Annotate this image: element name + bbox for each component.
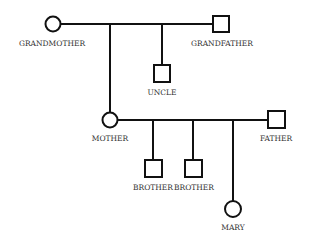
grandfather-label: GRANDFATHER: [191, 39, 253, 48]
uncle-male-icon: [154, 65, 170, 82]
brother2-label: BROTHER: [174, 183, 214, 192]
brother2-male-icon: [185, 160, 202, 177]
father-male-icon: [268, 111, 285, 128]
mother-label: MOTHER: [92, 134, 129, 143]
father-label: FATHER: [260, 134, 293, 143]
grandmother-female-icon: [46, 17, 61, 32]
uncle-label: UNCLE: [147, 88, 176, 97]
brother1-label: BROTHER: [133, 183, 173, 192]
brother1-male-icon: [145, 160, 162, 177]
grandfather-male-icon: [213, 16, 229, 32]
pedigree-chart: GRANDMOTHER GRANDFATHER UNCLE MOTHER FAT…: [0, 0, 313, 242]
mary-female-icon: [225, 201, 241, 217]
mary-label: MARY: [221, 223, 246, 232]
mother-female-icon: [103, 113, 118, 128]
grandmother-label: GRANDMOTHER: [19, 39, 85, 48]
